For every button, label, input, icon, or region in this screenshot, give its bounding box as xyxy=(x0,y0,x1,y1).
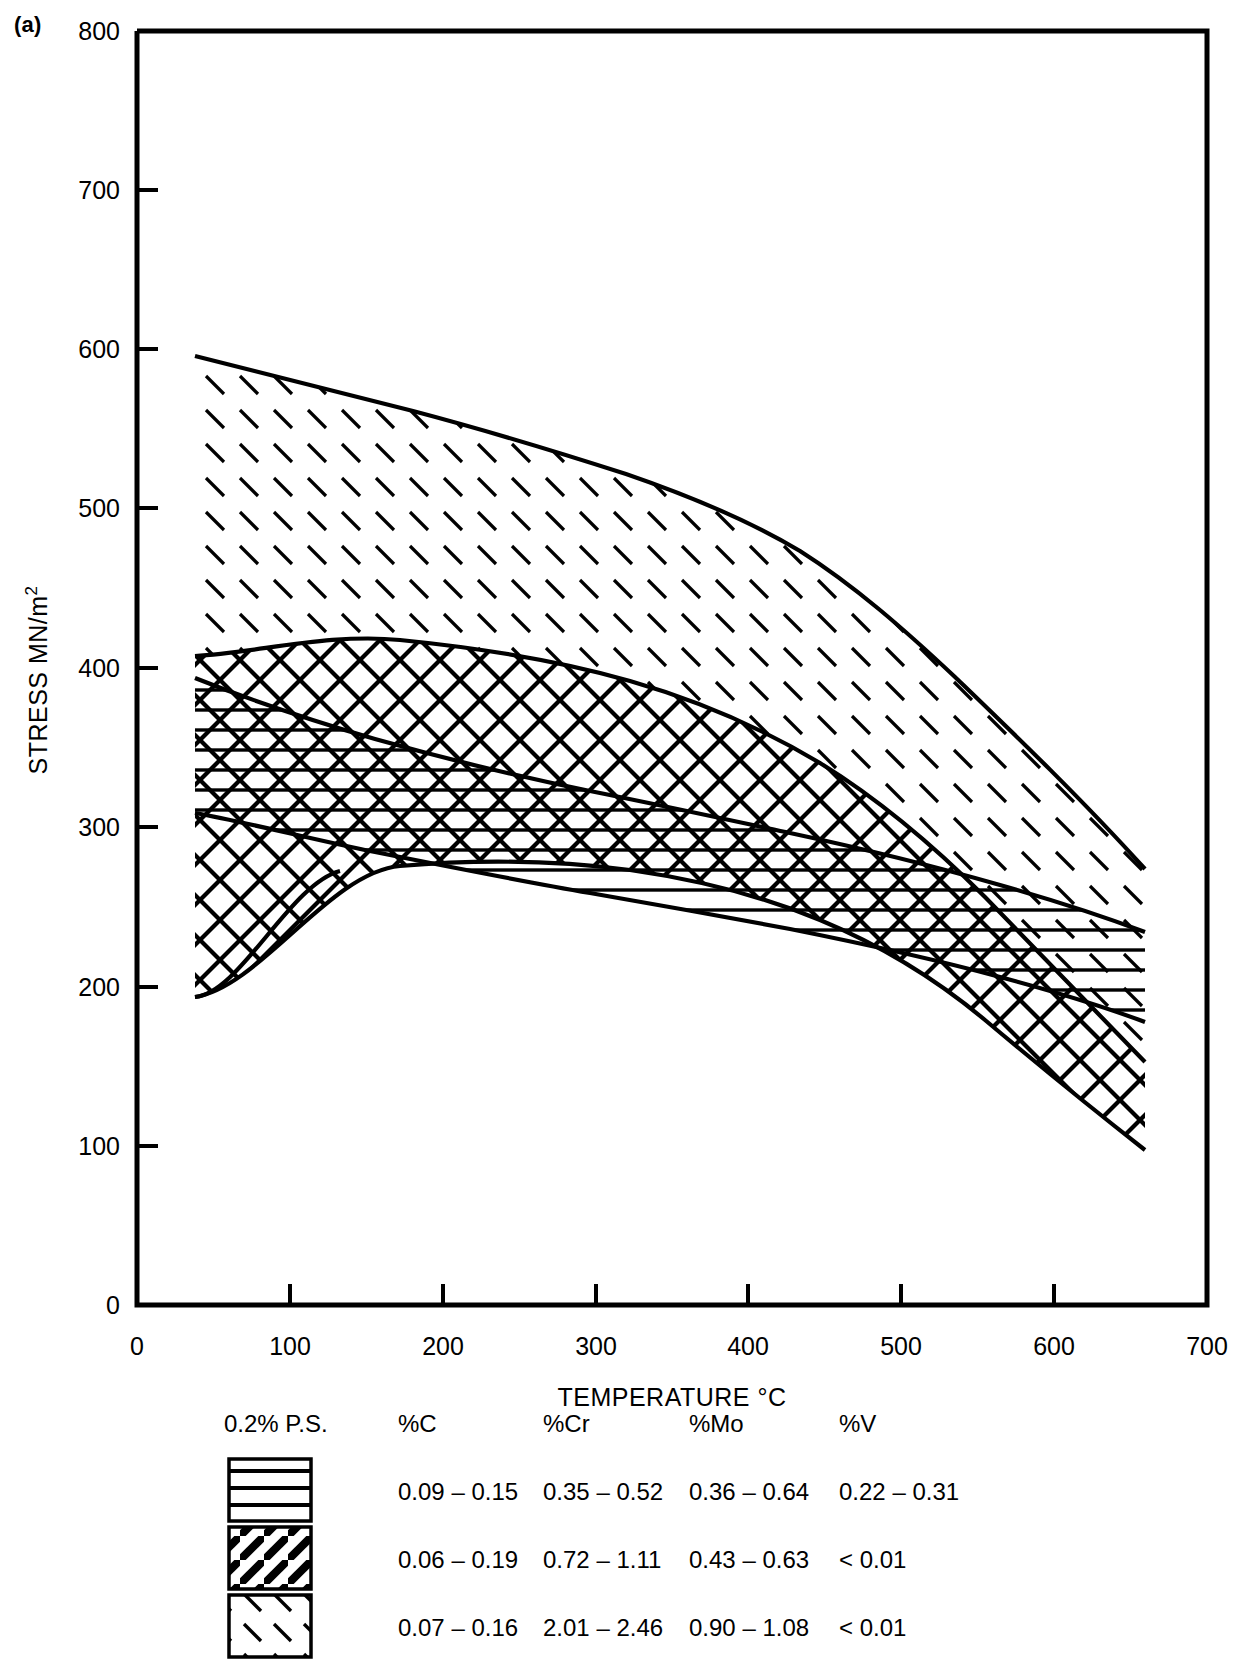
x-axis-ticks xyxy=(290,1284,1054,1305)
legend-cell-v: 0.22 – 0.31 xyxy=(839,1478,959,1505)
y-tick-label: 800 xyxy=(78,17,120,45)
x-axis-tick-labels: 0 100 200 300 400 500 600 700 xyxy=(130,1332,1228,1360)
legend-cell-c: 0.07 – 0.16 xyxy=(398,1614,518,1641)
figure-root: (a) xyxy=(0,0,1237,1671)
legend-cell-mo: 0.36 – 0.64 xyxy=(689,1478,809,1505)
y-axis-title-exponent: 2 xyxy=(22,585,41,595)
y-tick-label: 600 xyxy=(78,335,120,363)
y-tick-label: 300 xyxy=(78,813,120,841)
legend-swatch-diagonal-slash xyxy=(229,1527,311,1589)
x-tick-label: 500 xyxy=(880,1332,922,1360)
x-tick-label: 0 xyxy=(130,1332,144,1360)
y-tick-label: 500 xyxy=(78,494,120,522)
x-tick-label: 400 xyxy=(727,1332,769,1360)
x-tick-label: 700 xyxy=(1186,1332,1228,1360)
legend-table: 0.2% P.S. %C %Cr %Mo %V 0.09 – 0.15 0.35… xyxy=(224,1410,959,1657)
y-axis-tick-labels: 800 700 600 500 400 300 200 100 0 xyxy=(78,17,120,1319)
legend-header-c: %C xyxy=(398,1410,437,1437)
legend-swatch-horizontal-lines xyxy=(229,1459,311,1521)
y-axis-ticks xyxy=(137,190,158,1146)
x-tick-label: 300 xyxy=(575,1332,617,1360)
legend-cell-c: 0.09 – 0.15 xyxy=(398,1478,518,1505)
y-axis-title-main: STRESS MN/m xyxy=(24,595,52,774)
legend-cell-v: < 0.01 xyxy=(839,1546,906,1573)
legend-header-cr: %Cr xyxy=(543,1410,590,1437)
y-tick-label: 100 xyxy=(78,1132,120,1160)
legend-cell-mo: 0.90 – 1.08 xyxy=(689,1614,809,1641)
data-bands xyxy=(195,356,1145,1150)
legend-cell-mo: 0.43 – 0.63 xyxy=(689,1546,809,1573)
y-axis-title: STRESS MN/m2 xyxy=(22,585,52,774)
legend-header-ps: 0.2% P.S. xyxy=(224,1410,328,1437)
legend-cell-cr: 0.35 – 0.52 xyxy=(543,1478,663,1505)
legend-cell-v: < 0.01 xyxy=(839,1614,906,1641)
y-tick-label: 700 xyxy=(78,176,120,204)
x-tick-label: 100 xyxy=(269,1332,311,1360)
legend-swatch-sparse-backslash xyxy=(229,1595,311,1657)
x-tick-label: 600 xyxy=(1033,1332,1075,1360)
x-axis-title: TEMPERATURE °C xyxy=(557,1383,786,1411)
y-tick-label: 0 xyxy=(106,1291,120,1319)
chart-svg: 800 700 600 500 400 300 200 100 0 0 100 … xyxy=(0,0,1237,1671)
x-tick-label: 200 xyxy=(422,1332,464,1360)
legend-cell-cr: 2.01 – 2.46 xyxy=(543,1614,663,1641)
y-tick-label: 400 xyxy=(78,654,120,682)
y-tick-label: 200 xyxy=(78,973,120,1001)
legend-header-v: %V xyxy=(839,1410,876,1437)
legend-cell-cr: 0.72 – 1.11 xyxy=(543,1546,661,1573)
legend-header-mo: %Mo xyxy=(689,1410,744,1437)
legend-cell-c: 0.06 – 0.19 xyxy=(398,1546,518,1573)
